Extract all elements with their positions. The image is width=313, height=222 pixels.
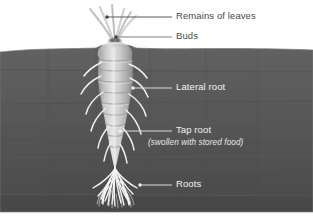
leader-dot	[105, 15, 108, 18]
figure-canvas: Remains of leaves Buds Lateral root Tap …	[0, 0, 313, 222]
label-remains-of-leaves: Remains of leaves	[176, 11, 256, 21]
label-roots: Roots	[176, 179, 201, 189]
leader-remains-of-leaves	[105, 15, 172, 18]
leader-dot	[138, 183, 141, 186]
leader-dot	[114, 35, 117, 38]
label-tap-root-subtitle: (swollen with stored food)	[148, 138, 243, 147]
leaf-stalks-group	[90, 5, 136, 40]
label-tap-root: Tap root	[176, 125, 211, 135]
soil-block	[0, 44, 313, 213]
leader-dot	[131, 86, 134, 89]
diagram-svg	[0, 0, 313, 222]
soil-texture	[0, 46, 313, 212]
leader-dot	[118, 129, 121, 132]
leader-buds	[114, 35, 172, 38]
label-buds: Buds	[176, 31, 198, 41]
label-lateral-root: Lateral root	[176, 82, 225, 92]
